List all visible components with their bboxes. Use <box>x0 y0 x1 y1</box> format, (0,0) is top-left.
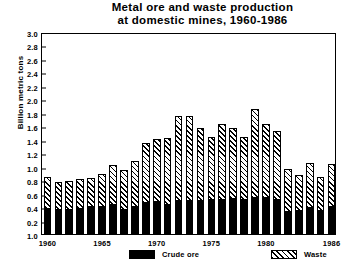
y-tick-label: 1.0 <box>27 164 38 173</box>
bar-segment-crude-ore <box>218 199 226 234</box>
chart-title-line-1: Metal ore and waste production <box>60 1 345 14</box>
bar-1960 <box>44 177 52 234</box>
bar-segment-crude-ore <box>284 211 292 234</box>
bar-segment-crude-ore <box>120 209 128 234</box>
y-tick-label: 2.6 <box>27 56 38 65</box>
bar-segment-crude-ore <box>175 200 183 234</box>
y-tick-label: 0.6 <box>27 191 38 200</box>
bar-segment-crude-ore <box>131 206 139 234</box>
y-tick-label: 1.8 <box>27 110 38 119</box>
y-tick-label: 2.0 <box>27 97 38 106</box>
y-tick-label: 3.0 <box>27 30 38 39</box>
y-tick-label: 0.8 <box>27 178 38 187</box>
bar-1966 <box>109 165 117 234</box>
bar-1970 <box>153 139 161 234</box>
legend-swatch-icon <box>271 250 297 259</box>
bar-1985 <box>317 177 325 234</box>
legend-label: Waste <box>304 250 327 259</box>
bar-1964 <box>87 178 95 234</box>
y-tick-mark <box>42 60 46 61</box>
y-tick-label: 1.4 <box>27 137 38 146</box>
bar-segment-crude-ore <box>306 207 314 234</box>
y-tick-label: 0.2 <box>27 218 38 227</box>
x-tick-label: 1975 <box>203 239 221 248</box>
x-tick-label: 1980 <box>257 239 275 248</box>
y-tick-mark <box>42 101 46 102</box>
bar-segment-crude-ore <box>208 199 216 234</box>
bar-1962 <box>65 181 73 234</box>
bar-segment-crude-ore <box>98 206 106 234</box>
bar-1986 <box>328 164 336 234</box>
y-tick-mark <box>42 128 46 129</box>
bar-1969 <box>142 143 150 234</box>
bar-segment-crude-ore <box>76 208 84 234</box>
bar-segment-crude-ore <box>295 210 303 234</box>
bar-segment-crude-ore <box>251 197 259 234</box>
bar-segment-crude-ore <box>164 204 172 234</box>
bar-segment-crude-ore <box>262 197 270 234</box>
bar-1976 <box>218 124 226 234</box>
bar-1982 <box>284 169 292 234</box>
bar-segment-crude-ore <box>229 198 237 234</box>
bar-1980 <box>262 124 270 234</box>
bar-segment-crude-ore <box>65 209 73 234</box>
y-tick-mark <box>42 155 46 156</box>
y-tick-label: 2.4 <box>27 70 38 79</box>
bar-1963 <box>76 179 84 234</box>
y-tick-label: 1.2 <box>27 151 38 160</box>
x-tick-label: 1960 <box>39 239 57 248</box>
bar-segment-crude-ore <box>55 209 63 234</box>
x-tick-label: 1965 <box>93 239 111 248</box>
bar-segment-crude-ore <box>153 201 161 234</box>
bar-1965 <box>98 174 106 234</box>
bar-1974 <box>197 128 205 234</box>
y-axis-label: Billion metric tons <box>16 33 25 153</box>
legend-swatch-icon <box>129 250 155 259</box>
bar-segment-crude-ore <box>273 199 281 234</box>
y-tick-label: 2.2 <box>27 83 38 92</box>
bar-segment-crude-ore <box>317 210 325 234</box>
bar-segment-crude-ore <box>142 202 150 234</box>
legend-label: Crude ore <box>162 250 199 259</box>
bar-segment-crude-ore <box>197 200 205 234</box>
bar-1981 <box>273 131 281 234</box>
y-tick-mark <box>42 168 46 169</box>
bar-1972 <box>175 116 183 234</box>
x-tick-label: 1986 <box>323 239 341 248</box>
bar-segment-crude-ore <box>87 206 95 234</box>
bar-1975 <box>208 137 216 234</box>
plot-area: 3.02.82.62.42.22.01.81.61.41.21.00.80.60… <box>41 33 336 235</box>
bar-1973 <box>186 116 194 234</box>
y-tick-label: 0.4 <box>27 205 38 214</box>
bar-1979 <box>251 109 259 234</box>
y-tick-label: 1.0 <box>27 232 38 241</box>
bar-1968 <box>131 161 139 234</box>
bar-1983 <box>295 175 303 234</box>
bar-1984 <box>306 163 314 234</box>
chart-legend: Crude oreWaste <box>41 250 336 266</box>
chart-title: Metal ore and waste production at domest… <box>60 1 345 27</box>
x-tick-label: 1970 <box>148 239 166 248</box>
bar-1977 <box>229 128 237 234</box>
bar-segment-crude-ore <box>240 199 248 234</box>
y-tick-mark <box>42 141 46 142</box>
bar-1978 <box>240 137 248 234</box>
chart-figure: Metal ore and waste production at domest… <box>0 0 351 271</box>
legend-entry-crude-ore: Crude ore <box>129 250 199 259</box>
y-tick-label: 1.6 <box>27 124 38 133</box>
bar-1961 <box>55 182 63 234</box>
y-tick-mark <box>42 87 46 88</box>
bar-1971 <box>164 138 172 234</box>
bar-segment-crude-ore <box>44 208 52 234</box>
y-tick-mark <box>42 47 46 48</box>
chart-title-line-2: at domestic mines, 1960-1986 <box>60 14 345 27</box>
bar-segment-crude-ore <box>186 200 194 234</box>
legend-entry-waste: Waste <box>271 250 327 259</box>
bar-1967 <box>120 170 128 234</box>
y-tick-label: 2.8 <box>27 43 38 52</box>
y-tick-mark <box>42 74 46 75</box>
bar-segment-crude-ore <box>328 206 336 234</box>
y-tick-mark <box>42 114 46 115</box>
bar-segment-crude-ore <box>109 204 117 234</box>
